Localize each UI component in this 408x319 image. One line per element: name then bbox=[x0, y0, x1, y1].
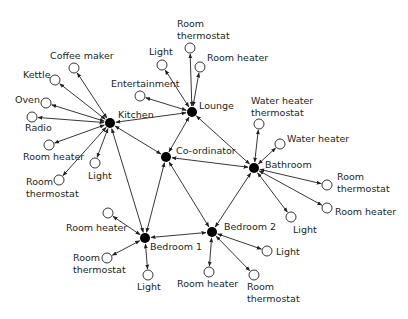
device-label: Room heater bbox=[66, 222, 127, 233]
device-link bbox=[145, 244, 147, 269]
device-label: thermostat bbox=[73, 264, 126, 275]
hub-link-coordinator-bedroom1 bbox=[147, 163, 165, 232]
device-node bbox=[254, 119, 264, 129]
device-node bbox=[135, 91, 145, 101]
device-label: Light bbox=[149, 46, 173, 57]
device-link bbox=[77, 73, 106, 118]
device-link bbox=[209, 238, 211, 266]
device-node bbox=[69, 63, 79, 73]
device-node bbox=[286, 212, 296, 222]
device-label: Room heater bbox=[177, 278, 238, 289]
device-node bbox=[322, 203, 332, 213]
device-node bbox=[262, 246, 272, 256]
hub-node-bedroom2 bbox=[207, 227, 217, 237]
device-link bbox=[97, 129, 108, 158]
device-node bbox=[249, 270, 259, 280]
device-node bbox=[41, 98, 51, 108]
hub-link-bathroom-bedroom2 bbox=[215, 173, 250, 227]
hub-node-lounge bbox=[187, 107, 197, 117]
device-label: Room bbox=[247, 281, 274, 292]
device-node bbox=[50, 75, 60, 85]
device-label: Radio bbox=[25, 122, 52, 133]
device-link bbox=[218, 234, 262, 249]
device-node bbox=[322, 180, 332, 190]
hub-label-bedroom1: Bedroom 1 bbox=[150, 241, 202, 252]
device-node bbox=[157, 60, 167, 70]
device-label: Room bbox=[73, 252, 100, 263]
device-label: thermostat bbox=[26, 188, 79, 199]
hub-link-coordinator-bathroom bbox=[172, 158, 248, 168]
device-node bbox=[204, 267, 214, 277]
hub-link-kitchen-coordinator bbox=[115, 126, 161, 154]
device-link bbox=[112, 241, 139, 255]
hub-link-lounge-bathroom bbox=[196, 116, 249, 164]
device-label: Water heater bbox=[287, 133, 349, 144]
hub-node-kitchen bbox=[105, 118, 115, 128]
device-label: Coffee maker bbox=[50, 50, 114, 61]
home-network-diagram: KitchenLoungeCo-ordinatorBathroomBedroom… bbox=[0, 0, 408, 319]
hub-link-bedroom1-bedroom2 bbox=[151, 233, 206, 238]
device-node bbox=[275, 139, 285, 149]
diagram-canvas: KitchenLoungeCo-ordinatorBathroomBedroom… bbox=[0, 0, 408, 319]
device-link bbox=[190, 54, 192, 106]
hub-label-bathroom: Bathroom bbox=[265, 159, 312, 170]
device-label: Light bbox=[88, 170, 112, 181]
hub-label-bedroom2: Bedroom 2 bbox=[224, 221, 276, 232]
device-label: Room bbox=[26, 176, 53, 187]
device-label: Entertainment bbox=[111, 78, 180, 89]
device-link bbox=[216, 236, 250, 270]
device-link bbox=[258, 173, 288, 212]
device-label: Light bbox=[293, 224, 317, 235]
device-label: thermostat bbox=[337, 183, 390, 194]
hub-node-bathroom bbox=[249, 163, 259, 173]
device-label: Room bbox=[337, 171, 364, 182]
device-node bbox=[143, 270, 153, 280]
device-node bbox=[90, 158, 100, 168]
hub-label-lounge: Lounge bbox=[199, 100, 234, 111]
device-label: thermostat bbox=[251, 107, 304, 118]
device-label: Room heater bbox=[23, 151, 84, 162]
hub-link-coordinator-bedroom2 bbox=[169, 162, 209, 227]
device-label: thermostat bbox=[247, 293, 300, 304]
hub-link-kitchen-bedroom1 bbox=[112, 129, 144, 233]
device-label: Light bbox=[137, 281, 161, 292]
labels: KitchenLoungeCo-ordinatorBathroomBedroom… bbox=[15, 18, 396, 304]
hub-label-kitchen: Kitchen bbox=[118, 109, 154, 120]
device-node bbox=[195, 62, 205, 72]
device-label: Water heater bbox=[251, 95, 313, 106]
device-label: Light bbox=[276, 246, 300, 257]
device-node bbox=[44, 140, 54, 150]
device-link bbox=[55, 125, 105, 143]
device-node bbox=[27, 112, 37, 122]
device-label: Room heater bbox=[335, 206, 396, 217]
device-label: Room bbox=[177, 18, 204, 29]
hub-node-coordinator bbox=[161, 152, 171, 162]
device-label: Room heater bbox=[207, 52, 268, 63]
device-label: Oven bbox=[15, 94, 40, 105]
hub-label-coordinator: Co-ordinator bbox=[176, 145, 236, 156]
device-label: thermostat bbox=[177, 30, 230, 41]
device-node bbox=[185, 43, 195, 53]
device-node bbox=[103, 208, 113, 218]
device-link bbox=[255, 130, 259, 162]
device-node bbox=[54, 175, 64, 185]
device-label: Kettle bbox=[23, 69, 51, 80]
device-node bbox=[102, 253, 112, 263]
hub-node-bedroom1 bbox=[140, 233, 150, 243]
